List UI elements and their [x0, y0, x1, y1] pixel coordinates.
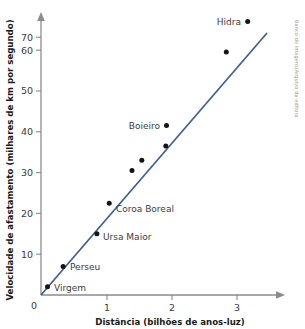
chart-figure: 10 20 30 40 50 60 70 1 2 3 0	[0, 0, 305, 329]
image-credit: Banco de imagens/Arquivo da editora	[293, 20, 300, 118]
x-axis-title: Distância (bilhões de anos-luz)	[95, 317, 245, 327]
y-axis-arrowhead	[37, 12, 45, 21]
data-point	[224, 50, 229, 55]
x-tick-label: 2	[169, 302, 175, 313]
scatter-plot: 10 20 30 40 50 60 70 1 2 3 0	[0, 0, 305, 329]
y-tick-label: 20	[21, 208, 33, 219]
point-labels-group: Virgem Perseu Ursa Maior Coroa Boreal Bo…	[54, 17, 241, 292]
point-label-hidra: Hidra	[217, 17, 241, 27]
data-points-group	[45, 19, 250, 289]
y-axis-title: Velocidade de afastamento (milhares de k…	[5, 19, 15, 300]
data-point	[94, 231, 99, 236]
trend-line	[41, 33, 267, 295]
point-label-boieiro: Boieiro	[129, 121, 161, 131]
data-point	[163, 144, 168, 149]
y-tick-label: 40	[21, 126, 33, 137]
data-point	[164, 123, 169, 128]
y-axis-ticks: 10 20 30 40 50 60 70	[21, 32, 41, 260]
data-point	[61, 264, 66, 269]
y-tick-label: 70	[21, 32, 33, 43]
data-point	[139, 158, 144, 163]
data-point	[130, 168, 135, 173]
y-tick-label: 10	[21, 249, 33, 260]
x-axis-ticks: 1 2 3	[104, 295, 240, 313]
data-point	[245, 19, 250, 24]
x-axis-arrowhead	[276, 291, 285, 299]
point-label-coroa-boreal: Coroa Boreal	[116, 204, 174, 214]
x-tick-label: 3	[234, 302, 240, 313]
data-point	[107, 201, 112, 206]
origin-label: 0	[31, 300, 37, 311]
data-point	[45, 284, 50, 289]
y-tick-label: 30	[21, 167, 33, 178]
point-label-virgem: Virgem	[54, 283, 86, 293]
point-label-ursa-maior: Ursa Maior	[103, 232, 152, 242]
y-tick-label: 50	[21, 85, 33, 96]
point-label-perseu: Perseu	[70, 262, 100, 272]
x-tick-label: 1	[104, 302, 110, 313]
y-tick-label: 60	[21, 45, 33, 56]
